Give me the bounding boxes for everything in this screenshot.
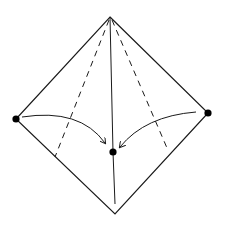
fold-arrows: [22, 112, 196, 147]
center-lower-line: [113, 152, 115, 204]
diagram-svg: [0, 0, 225, 225]
solid-lines: [110, 17, 115, 204]
center-dot: [109, 148, 116, 155]
fold-diagram: [0, 0, 225, 225]
center-ridge-line: [110, 17, 113, 152]
left-dot: [12, 115, 19, 122]
right-dot: [204, 109, 211, 116]
left-fold-arrow: [22, 115, 105, 143]
left-dashed-fold: [55, 20, 109, 157]
right-fold-arrow: [120, 112, 196, 147]
